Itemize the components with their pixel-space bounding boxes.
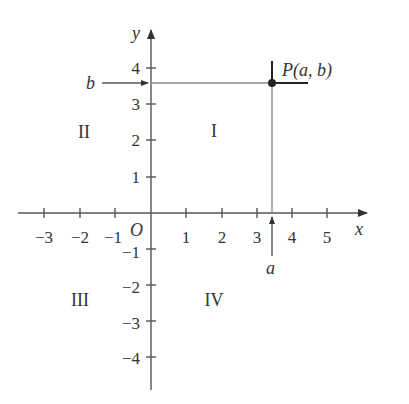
x-tick-label: −3 xyxy=(35,228,53,247)
point-p-marker xyxy=(268,79,276,87)
quadrant-iii-label: III xyxy=(71,290,89,310)
x-tick-label: 4 xyxy=(288,228,297,247)
y-tick-label: −1 xyxy=(122,243,140,262)
coordinate-plane: −3 −2 −1 1 2 3 4 5 4 3 2 1 −1 −2 −3 −4 x… xyxy=(0,0,409,404)
origin-label: O xyxy=(130,220,143,240)
point-p-label: P(a, b) xyxy=(281,60,332,81)
y-tick-label: 1 xyxy=(132,168,141,187)
x-tick-label: 5 xyxy=(323,228,332,247)
y-tick-label: 3 xyxy=(132,95,141,114)
y-tick-label: −4 xyxy=(122,349,141,368)
x-tick-label: −2 xyxy=(71,228,89,247)
a-label: a xyxy=(266,258,275,278)
quadrant-ii-label: II xyxy=(78,122,90,142)
y-tick-label: −2 xyxy=(122,278,140,297)
x-tick-label: 3 xyxy=(253,228,262,247)
quadrant-i-label: I xyxy=(211,121,217,141)
x-tick-label: 1 xyxy=(182,228,191,247)
y-tick-label: 4 xyxy=(132,59,141,78)
quadrant-iv-label: IV xyxy=(205,290,224,310)
x-tick-label: 2 xyxy=(218,228,227,247)
x-tick-label: −1 xyxy=(104,228,122,247)
y-axis-label: y xyxy=(130,23,140,43)
x-axis-label: x xyxy=(354,219,363,239)
b-label: b xyxy=(86,73,95,93)
y-tick-label: −3 xyxy=(122,314,140,333)
y-tick-label: 2 xyxy=(132,131,141,150)
